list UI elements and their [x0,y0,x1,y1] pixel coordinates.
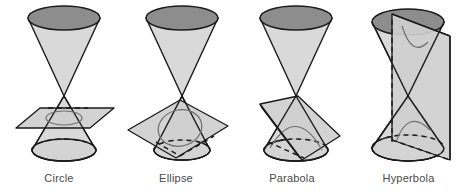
panel-hyperbola: Hyperbola [350,0,467,192]
ellipse-diagram [118,0,234,172]
cutting-plane [128,100,228,158]
cone-top-cap [146,6,218,30]
panel-caption-hyperbola: Hyperbola [350,172,467,184]
panel-caption-parabola: Parabola [234,172,350,184]
cone-top-cap [260,6,332,30]
parabola-diagram [234,0,350,172]
conic-sections-figure: Circle Ellipse [0,0,467,192]
panel-ellipse: Ellipse [118,0,234,192]
panel-circle: Circle [0,0,118,192]
cutting-plane [392,14,450,160]
hyperbola-diagram [350,0,467,172]
panel-caption-circle: Circle [0,172,118,184]
circle-diagram [0,0,118,172]
panel-caption-ellipse: Ellipse [118,172,234,184]
cone-top-cap [28,6,100,30]
panel-parabola: Parabola [234,0,350,192]
